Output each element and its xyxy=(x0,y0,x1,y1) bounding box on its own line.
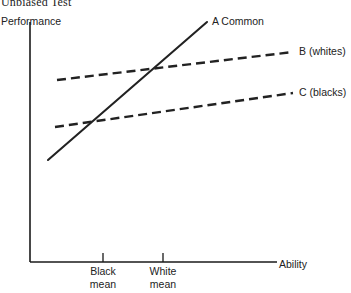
x-axis-label: Ability xyxy=(279,258,307,270)
series-label-c-blacks: C (blacks) xyxy=(299,86,346,98)
series-line-b-whites xyxy=(57,52,293,80)
series-line-a-common xyxy=(48,22,207,160)
white-mean-tick-label: White mean xyxy=(136,265,190,290)
chart-figure: Unbiased Test Performance A Common B (wh… xyxy=(0,0,351,293)
black-mean-tick-label: Black mean xyxy=(76,265,130,290)
black-mean-tick-label-line2: mean xyxy=(76,278,130,291)
black-mean-tick-label-line1: Black xyxy=(76,265,130,278)
series-label-a-common: A Common xyxy=(212,15,264,27)
series-label-b-whites: B (whites) xyxy=(299,45,346,57)
white-mean-tick-label-line1: White xyxy=(136,265,190,278)
series-line-c-blacks xyxy=(55,93,293,127)
axis-ticks-group xyxy=(103,253,163,262)
series-group xyxy=(48,22,293,160)
white-mean-tick-label-line2: mean xyxy=(136,278,190,291)
chart-canvas xyxy=(0,0,351,293)
